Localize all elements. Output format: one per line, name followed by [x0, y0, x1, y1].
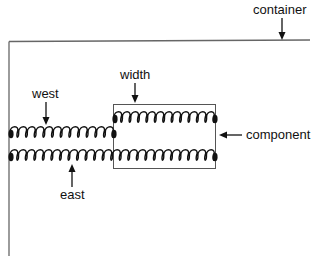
spring-coil-icon — [10, 150, 215, 161]
spring-anchor-icon — [111, 130, 116, 138]
container-frame — [9, 40, 310, 256]
spring-anchor-icon — [8, 153, 13, 161]
spring-anchor-icon — [112, 115, 117, 123]
spring-anchor-icon — [212, 115, 217, 123]
width-arrow-icon — [132, 83, 139, 103]
spring-anchor-icon — [8, 130, 13, 138]
west-arrow-icon — [43, 102, 50, 125]
spring-coil-icon — [114, 112, 215, 123]
component-arrow-icon — [219, 132, 242, 139]
spring-width — [112, 112, 217, 123]
east-arrow-icon — [69, 164, 76, 187]
east-label: east — [60, 187, 85, 202]
spring-coil-icon — [10, 127, 114, 138]
container-label: container — [253, 2, 307, 17]
spring-west — [8, 127, 116, 138]
width-label: width — [119, 67, 150, 82]
component-label: component — [246, 127, 311, 142]
spring-anchor-icon — [212, 153, 217, 161]
container-arrow-icon — [279, 18, 286, 40]
container-layout-diagram: container component width west east — [0, 0, 317, 263]
springs — [8, 112, 217, 161]
west-label: west — [31, 86, 59, 101]
